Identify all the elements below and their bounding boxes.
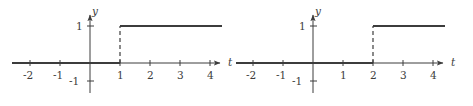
x-tick-label-1-left: 1 — [117, 70, 124, 81]
plot-left-graphics — [0, 0, 237, 106]
x-tick-label-4-left: 4 — [207, 70, 214, 81]
plot-panel-left: t y -2 -1 1 2 3 4 1 -1 — [0, 0, 237, 106]
x-axis-label-left: t — [228, 57, 232, 68]
x-tick-label-4-right: 4 — [430, 70, 437, 81]
x-tick-label-2-left: 2 — [147, 70, 154, 81]
x-tick-label-minus2-left: -2 — [23, 70, 33, 81]
plot-right-graphics — [236, 0, 473, 106]
x-tick-label-minus1-right: -1 — [276, 70, 286, 81]
x-tick-label-minus2-right: -2 — [246, 70, 256, 81]
y-tick-label-1-right: 1 — [299, 21, 306, 32]
y-tick-label-minus1-right: -1 — [292, 76, 302, 87]
x-tick-label-minus1-left: -1 — [53, 70, 63, 81]
y-axis-label-left: y — [92, 6, 98, 17]
plot-panel-right: t y -2 -1 1 2 3 4 1 -1 — [236, 0, 473, 106]
x-tick-label-1-right: 1 — [340, 70, 347, 81]
y-axis-label-right: y — [315, 6, 321, 17]
y-tick-label-minus1-left: -1 — [69, 76, 79, 87]
step-function-figure: t y -2 -1 1 2 3 4 1 -1 — [0, 0, 473, 106]
x-tick-label-3-right: 3 — [400, 70, 407, 81]
x-tick-label-3-left: 3 — [177, 70, 184, 81]
y-tick-label-1-left: 1 — [76, 21, 83, 32]
x-axis-label-right: t — [451, 57, 455, 68]
x-tick-label-2-right: 2 — [370, 70, 377, 81]
